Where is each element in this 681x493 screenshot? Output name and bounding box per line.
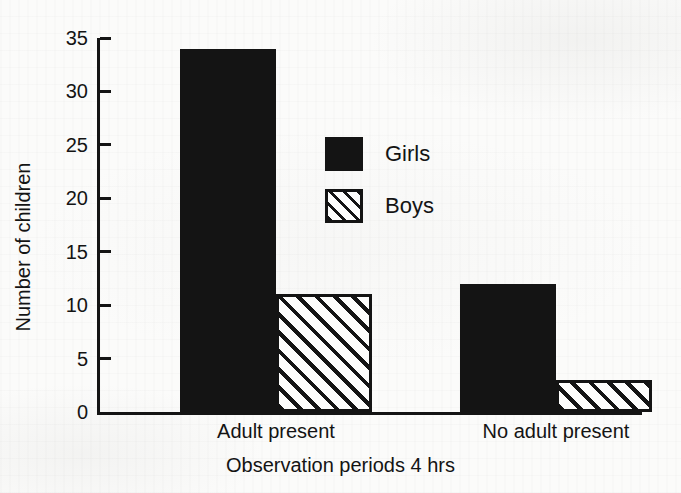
y-axis-tick-mark [100,250,111,253]
y-axis-tick: 0 [97,411,111,414]
y-axis-tick-mark [100,304,111,307]
legend-item-girls: Girls [325,137,434,171]
bar-chart-figure: Number of children 05101520253035 Adult … [0,0,681,493]
legend-swatch-girls [325,137,363,171]
y-axis-title: Number of children [8,0,38,493]
y-axis-tick: 20 [97,197,111,200]
y-axis-tick-mark [100,197,111,200]
y-axis-tick-label: 0 [77,402,88,422]
y-axis-tick: 10 [97,304,111,307]
y-axis-tick-label: 20 [66,188,88,208]
bar-boys-adult-present [276,294,372,412]
legend-label-boys: Boys [385,195,434,217]
y-axis-tick-label: 25 [66,135,88,155]
x-axis-spine [97,412,642,415]
y-axis-tick-mark [100,357,111,360]
legend-label-girls: Girls [385,143,430,165]
legend-swatch-boys [325,189,363,223]
y-axis-tick: 30 [97,90,111,93]
bar-girls-adult-present [180,49,276,412]
legend-item-boys: Boys [325,189,434,223]
x-axis-category-label: Adult present [217,421,335,441]
y-axis-tick-mark [100,90,111,93]
y-axis-tick: 5 [97,357,111,360]
chart-legend: GirlsBoys [325,137,434,223]
bar-boys-no-adult-present [556,380,652,412]
y-axis-title-text: Number of children [13,162,33,331]
y-axis-tick: 15 [97,250,111,253]
y-axis-tick-mark [100,37,111,40]
bar-girls-no-adult-present [460,284,556,412]
x-axis-category-label: No adult present [483,421,630,441]
y-axis-tick-label: 35 [66,28,88,48]
y-axis-tick-label: 30 [66,81,88,101]
y-axis-tick: 35 [97,37,111,40]
y-axis-tick-label: 5 [77,349,88,369]
plot-area: 05101520253035 [97,38,642,415]
y-axis-tick-label: 10 [66,295,88,315]
y-axis-tick: 25 [97,143,111,146]
y-axis-tick-label: 15 [66,242,88,262]
x-axis-title: Observation periods 4 hrs [0,455,681,475]
y-axis-tick-mark [100,143,111,146]
